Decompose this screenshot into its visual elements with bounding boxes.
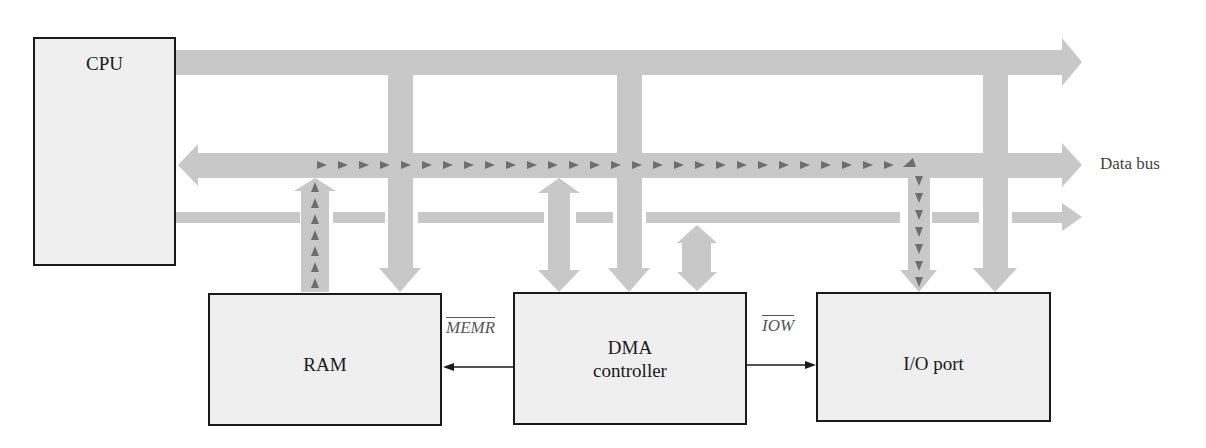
control-bus-segment — [333, 212, 385, 223]
ram-address-arrow — [379, 178, 421, 292]
memr-arrowhead — [443, 363, 454, 371]
buses — [175, 38, 1082, 292]
iow-arrowhead — [805, 361, 816, 369]
dma-data-arrow — [538, 178, 580, 292]
control-bus-segment — [932, 212, 979, 223]
ram-label: RAM — [208, 354, 442, 376]
data-bus-label: Data bus — [1100, 154, 1160, 174]
iow-signal-label: IOW — [762, 316, 794, 336]
control-bus-segment — [175, 212, 300, 223]
control-bus-end-arrow — [1012, 203, 1082, 231]
io-port-label: I/O port — [816, 353, 1051, 375]
control-bus-segment — [418, 212, 544, 223]
control-bus-segment — [646, 212, 900, 223]
dma-label-line1: DMA — [513, 337, 747, 359]
dma-address-arrow — [608, 178, 650, 292]
dma-control-arrow — [677, 225, 717, 291]
dma-label-line2: controller — [513, 360, 747, 382]
io-address-arrow — [973, 178, 1017, 292]
cpu-label: CPU — [33, 53, 176, 75]
control-bus-segment — [576, 212, 613, 223]
memr-signal-label: MEMR — [446, 318, 495, 338]
